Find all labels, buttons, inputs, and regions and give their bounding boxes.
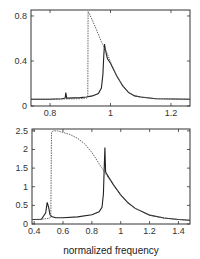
series-line-solid	[32, 148, 190, 221]
y-tick-label: 0.5	[15, 200, 28, 210]
x-tick-label: 1	[108, 108, 113, 118]
x-tick-label: 1.2	[143, 226, 156, 236]
x-tick-label: 1.2	[165, 108, 178, 118]
x-tick-label: 0.8	[44, 108, 57, 118]
y-tick-label: 0.8	[14, 11, 27, 21]
y-tick-label: 2.5	[15, 126, 28, 136]
x-tick-label: 0.6	[57, 226, 70, 236]
y-tick-label: 0.4	[14, 56, 27, 66]
x-tick-label: 0.4	[28, 226, 41, 236]
series-line-dashed	[31, 12, 190, 100]
y-tick-label: 0	[23, 219, 28, 229]
x-tick-label: 1.4	[172, 226, 185, 236]
x-tick-label: 1	[118, 226, 123, 236]
series-line-solid	[31, 44, 190, 99]
series-line-dashed	[32, 131, 190, 220]
plot-frame	[31, 10, 190, 106]
figure: 0.811.200.40.8 0.40.60.811.21.400.511.52…	[0, 0, 200, 259]
x-axis-label: normalized frequency	[63, 245, 159, 256]
top-panel: 0.811.200.40.8	[14, 10, 190, 118]
x-tick-label: 0.8	[86, 226, 99, 236]
plot-frame	[32, 129, 190, 224]
y-tick-label: 1	[23, 182, 28, 192]
y-tick-label: 2	[23, 144, 28, 154]
bottom-panel: 0.40.60.811.21.400.511.522.5	[15, 126, 190, 236]
y-tick-label: 1.5	[15, 163, 28, 173]
y-tick-label: 0	[22, 101, 27, 111]
